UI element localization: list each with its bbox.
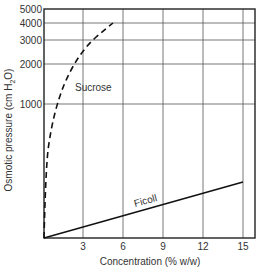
annotation-sucrose: Sucrose [75, 82, 112, 93]
svg-text:2000: 2000 [20, 59, 43, 70]
svg-text:1000: 1000 [20, 99, 43, 110]
x-ticks: 3 6 9 12 15 [80, 241, 249, 252]
svg-text:6: 6 [120, 241, 126, 252]
series-sucrose [44, 23, 113, 238]
svg-text:4000: 4000 [20, 18, 43, 29]
svg-text:15: 15 [237, 241, 249, 252]
svg-text:3: 3 [80, 241, 86, 252]
x-axis-label: Concentration (% w/w) [100, 256, 201, 267]
series-ficoll [44, 182, 243, 238]
svg-text:12: 12 [197, 241, 209, 252]
svg-text:5000: 5000 [20, 4, 43, 15]
svg-text:3000: 3000 [20, 35, 43, 46]
svg-text:9: 9 [160, 241, 166, 252]
y-ticks: 5000 4000 3000 2000 1000 [20, 4, 43, 110]
y-axis-label: Osmotic pressure (cm H2O) [3, 69, 16, 192]
chart: Sucrose Ficoll 5000 4000 3000 2000 1000 … [0, 0, 262, 272]
